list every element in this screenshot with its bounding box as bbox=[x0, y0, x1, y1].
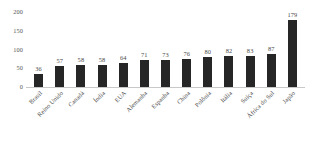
bar bbox=[55, 66, 64, 87]
bar bbox=[34, 74, 43, 88]
x-axis-tick-label: Canadá bbox=[67, 90, 85, 108]
y-axis: 050100150200 bbox=[0, 12, 26, 87]
bar-value-label: 58 bbox=[99, 57, 106, 63]
x-axis-tick-label: China bbox=[176, 90, 192, 106]
bar-slot: 83 bbox=[240, 12, 261, 87]
x-label-slot: Reino Unido bbox=[49, 89, 70, 141]
bar bbox=[98, 65, 107, 87]
bar-value-label: 179 bbox=[288, 12, 298, 18]
y-axis-tick-label: 50 bbox=[17, 65, 24, 71]
x-axis-tick-label: Japão bbox=[282, 90, 297, 105]
x-label-slot: EUA bbox=[113, 89, 134, 141]
bar bbox=[161, 60, 170, 87]
x-label-slot: Canadá bbox=[70, 89, 91, 141]
bar-chart: 050100150200 365758586471737680828387179… bbox=[0, 0, 311, 142]
bar-series: 365758586471737680828387179 bbox=[28, 12, 303, 87]
x-axis-category-labels: BrasilReino UnidoCanadáÍndiaEUAAlemanhaE… bbox=[28, 89, 303, 141]
y-axis-tick-label: 100 bbox=[13, 46, 23, 52]
x-axis-tick-label: Itália bbox=[219, 90, 233, 104]
bar bbox=[224, 56, 233, 87]
x-label-slot: África do Sul bbox=[261, 89, 282, 141]
bar-value-label: 36 bbox=[35, 66, 42, 72]
bar bbox=[203, 57, 212, 87]
bar bbox=[288, 20, 297, 87]
x-label-slot: Índia bbox=[91, 89, 112, 141]
x-label-slot: Alemanha bbox=[134, 89, 155, 141]
y-axis-tick-label: 150 bbox=[13, 28, 23, 34]
bar-slot: 57 bbox=[49, 12, 70, 87]
y-axis-tick-label: 0 bbox=[20, 84, 23, 90]
bar-value-label: 83 bbox=[247, 48, 254, 54]
bar-value-label: 80 bbox=[205, 49, 212, 55]
x-label-slot: Japão bbox=[282, 89, 303, 141]
bar-slot: 58 bbox=[91, 12, 112, 87]
x-label-slot: Espanha bbox=[155, 89, 176, 141]
bar-slot: 36 bbox=[28, 12, 49, 87]
y-axis-tick-label: 200 bbox=[13, 9, 23, 15]
x-axis-tick-label: Brasil bbox=[28, 90, 44, 106]
bar bbox=[246, 56, 255, 87]
bar-slot: 76 bbox=[176, 12, 197, 87]
bar-value-label: 57 bbox=[56, 58, 63, 64]
bar-slot: 58 bbox=[70, 12, 91, 87]
bar-slot: 82 bbox=[218, 12, 239, 87]
bar-slot: 179 bbox=[282, 12, 303, 87]
bar-slot: 87 bbox=[261, 12, 282, 87]
bar-slot: 80 bbox=[197, 12, 218, 87]
bar bbox=[267, 54, 276, 87]
bar bbox=[119, 63, 128, 87]
x-label-slot: Itália bbox=[218, 89, 239, 141]
bar bbox=[140, 60, 149, 87]
x-axis-tick-label: EUA bbox=[114, 90, 128, 104]
bar-slot: 73 bbox=[155, 12, 176, 87]
x-axis-tick-label: Polônia bbox=[194, 90, 213, 109]
bar-value-label: 82 bbox=[226, 48, 233, 54]
bar-slot: 64 bbox=[113, 12, 134, 87]
bar-value-label: 87 bbox=[268, 46, 275, 52]
bar-slot: 71 bbox=[134, 12, 155, 87]
bar-value-label: 71 bbox=[141, 52, 148, 58]
x-label-slot: Polônia bbox=[197, 89, 218, 141]
bar bbox=[182, 59, 191, 88]
x-axis-baseline bbox=[26, 87, 305, 88]
x-axis-tick-label: Índia bbox=[93, 90, 107, 104]
bar-value-label: 73 bbox=[162, 52, 169, 58]
x-label-slot: China bbox=[176, 89, 197, 141]
bar-value-label: 76 bbox=[183, 51, 190, 57]
bar-value-label: 64 bbox=[120, 55, 127, 61]
bar-value-label: 58 bbox=[78, 57, 85, 63]
x-axis-tick-label: Suíça bbox=[240, 90, 255, 105]
bar bbox=[76, 65, 85, 87]
